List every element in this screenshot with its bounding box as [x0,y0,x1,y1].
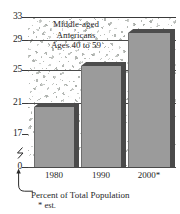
x-axis-label-1990: 1990 [78,170,124,180]
y-tick-25 [22,70,28,71]
annotation-line-3: Ages 40 to 59 [34,40,118,51]
x-axis-label-1980: 1980 [31,170,77,180]
bar-1980-side-bevel [74,103,79,167]
bar-2000-face [128,33,170,167]
y-tick-17 [22,134,28,135]
gridline-33 [28,17,176,18]
y-axis-label-33: 33 [2,12,22,22]
y-axis-label-0: 0 [2,162,22,172]
chart-caption: Percent of Total Population [31,190,129,200]
y-axis-label-17: 17 [2,129,22,139]
bar-1990-side-bevel [121,62,126,167]
bar-2000 [128,33,170,167]
bar-chart-figure: 33 29 25 21 17 0 Middle-aged Americans A… [0,0,180,214]
y-axis-label-21: 21 [2,98,22,108]
x-axis-baseline [28,167,176,168]
bar-1980 [34,107,74,167]
y-tick-33 [22,17,28,18]
bar-1980-face [34,107,74,167]
y-axis-label-29: 29 [2,35,22,45]
y-axis-label-25: 25 [2,65,22,75]
x-axis-label-2000: 2000* [126,170,172,180]
chart-annotation: Middle-aged Americans Ages 40 to 59 [34,19,118,51]
chart-footnote: * est. [38,201,56,210]
axis-break-icon [16,145,25,157]
y-tick-29 [22,40,28,41]
y-tick-0 [22,167,28,168]
annotation-line-1: Middle-aged [34,19,118,30]
annotation-line-2: Americans [34,30,118,41]
bar-1990 [81,66,121,167]
bar-1990-face [81,66,121,167]
bar-2000-side-bevel [170,29,175,167]
y-tick-21 [22,103,28,104]
